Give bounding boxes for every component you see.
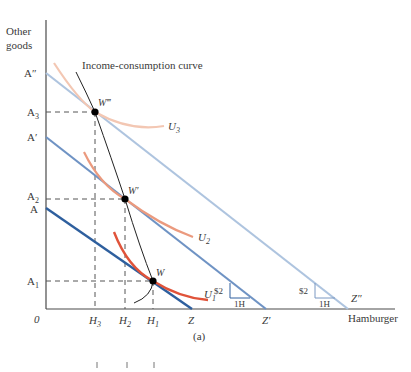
income-consumption-label: Income-consumption curve: [82, 59, 203, 71]
label-u2: U2: [198, 231, 210, 246]
income-consumption-diagram: Other goods Hamburger 0 A″ A3 A′ A2 A A1…: [0, 0, 411, 372]
point-wprime: [121, 195, 128, 202]
label-u3: U3: [168, 120, 180, 135]
slope-marker-1: [230, 283, 250, 298]
label-w3prime: W‴: [98, 97, 111, 108]
origin-label: 0: [34, 313, 40, 325]
dashed-guides: [46, 112, 153, 309]
lower-panel-ticks: [97, 362, 154, 368]
label-h3: H3: [88, 314, 101, 329]
budget-line-a-z: [46, 208, 192, 309]
x-axis-label: Hamburger: [348, 312, 398, 324]
label-a1: A1: [27, 275, 39, 290]
point-w3prime: [91, 108, 98, 115]
y-axis-label-line1: Other: [6, 25, 31, 37]
indifference-curve-u3: [54, 63, 164, 127]
label-z-prime: Z′: [262, 314, 271, 326]
label-h2: H2: [118, 314, 131, 329]
panel-label: (a): [193, 330, 206, 343]
point-w: [149, 277, 156, 284]
slope-qty-1: 1H: [234, 299, 246, 309]
label-wprime: W′: [128, 185, 139, 196]
slope-qty-2: 1H: [319, 299, 331, 309]
label-z: Z: [188, 314, 195, 326]
y-axis-label-line2: goods: [6, 39, 32, 51]
label-a-prime: A′: [27, 131, 37, 143]
label-a: A: [30, 203, 38, 215]
slope-price-2: $2: [299, 286, 308, 296]
slope-price-1: $2: [214, 286, 223, 296]
label-w: W: [156, 267, 166, 278]
label-h1: H1: [146, 314, 159, 329]
label-a3: A3: [27, 106, 39, 121]
label-a-double-prime: A″: [24, 67, 37, 79]
label-z-double-prime: Z″: [351, 292, 362, 304]
